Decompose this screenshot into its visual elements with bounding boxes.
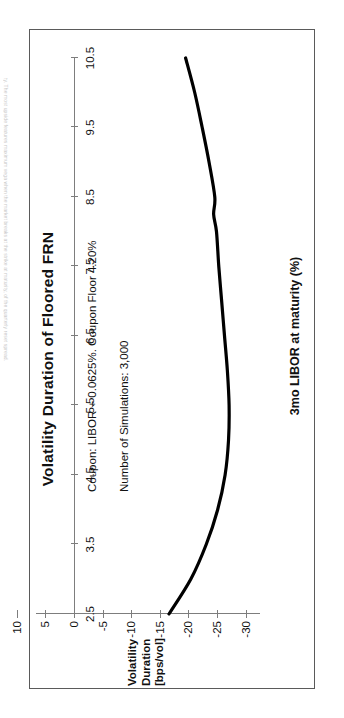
- page-edge-caption: ty. The most upside features maximum veg…: [0, 78, 11, 488]
- plot-area: 2.53.54.55.56.57.58.59.510.5 1050-5-10-1…: [74, 58, 260, 614]
- figure-page: ty. The most upside features maximum veg…: [0, 0, 344, 718]
- series-svg: [74, 58, 260, 614]
- chart-title: Volatility Duration of Floored FRN: [39, 30, 57, 688]
- y-axis-label-line-2: Duration: [140, 620, 154, 686]
- y-tick-label: 5: [39, 621, 51, 627]
- y-tick-label: -5: [97, 621, 109, 631]
- series-line-volatility-duration: [169, 58, 229, 614]
- edge-caption-text: ty. The most upside features maximum veg…: [3, 78, 9, 361]
- y-tick-label: -25: [211, 621, 223, 638]
- y-tick-label: 10: [11, 621, 23, 634]
- y-tick-label: 0: [68, 621, 80, 627]
- y-tick-label: -20: [182, 621, 194, 638]
- y-tick-label: -10: [125, 621, 137, 638]
- chart-figure: Volatility Duration of Floored FRN Volat…: [29, 29, 315, 689]
- y-tick-mark: [17, 610, 18, 618]
- y-tick-label: -15: [154, 621, 166, 638]
- y-tick-label: -30: [240, 621, 252, 638]
- y-tick-mark: [45, 610, 46, 618]
- x-axis-label: 3mo LIBOR at maturity (%): [288, 58, 302, 614]
